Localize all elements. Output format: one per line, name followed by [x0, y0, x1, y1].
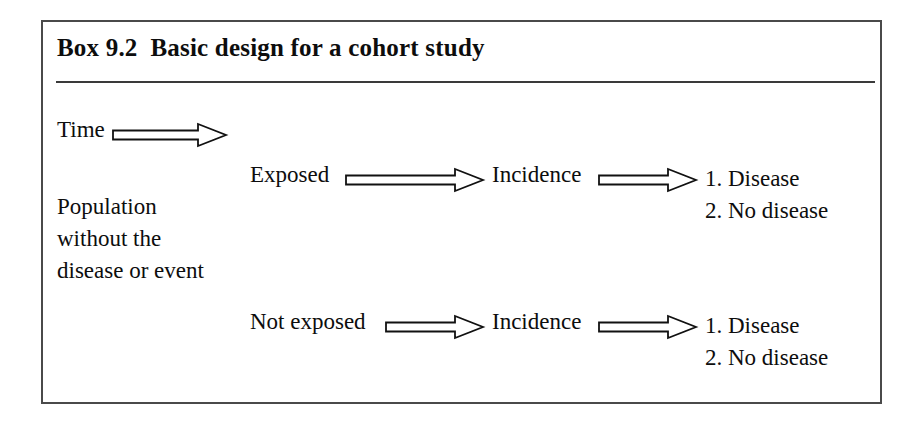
- figure-root: Box 9.2 Basic design for a cohort study …: [0, 0, 924, 425]
- box-title: Box 9.2 Basic design for a cohort study: [57, 34, 485, 62]
- branch-exposed-measure-label: Incidence: [492, 163, 581, 187]
- branch-not-exposed-exposure-label: Not exposed: [250, 310, 366, 334]
- branch-not-exposed-outcome-stack: 1. Disease 2. No disease: [705, 310, 828, 374]
- branch-exposed-outcome-stack: 1. Disease 2. No disease: [705, 163, 828, 227]
- outcome-item: 1. Disease: [705, 310, 828, 342]
- time-axis-label: Time: [57, 118, 105, 142]
- branch-not-exposed-measure-label: Incidence: [492, 310, 581, 334]
- outcome-item: 2. No disease: [705, 195, 828, 227]
- double-line-right-arrow-icon-exposed-to-incidence: [345, 167, 485, 193]
- double-line-right-arrow-icon-not-exposed-to-incidence: [385, 314, 485, 340]
- source-population-line: disease or event: [57, 255, 204, 287]
- double-line-right-arrow-icon-incidence-to-outcome-exposed: [598, 167, 698, 193]
- branch-exposed-exposure-label: Exposed: [250, 163, 329, 187]
- source-population-line: Population: [57, 191, 204, 223]
- double-line-right-arrow-icon-time: [112, 122, 228, 148]
- outcome-item: 2. No disease: [705, 342, 828, 374]
- title-divider-rule: [56, 81, 875, 83]
- outcome-item: 1. Disease: [705, 163, 828, 195]
- double-line-right-arrow-icon-incidence-to-outcome-not-exposed: [598, 314, 698, 340]
- source-population-line: without the: [57, 223, 204, 255]
- source-population-block: Population without the disease or event: [57, 191, 204, 287]
